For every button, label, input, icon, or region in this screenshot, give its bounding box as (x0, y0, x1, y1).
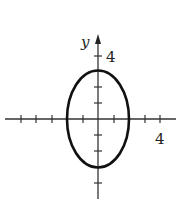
ellipse-graph: y 4 4 (0, 0, 178, 207)
y-tick-label-4: 4 (106, 48, 116, 66)
y-axis-arrow-icon (95, 34, 101, 44)
y-axis-label: y (80, 33, 90, 51)
x-tick-label-4: 4 (155, 130, 165, 148)
